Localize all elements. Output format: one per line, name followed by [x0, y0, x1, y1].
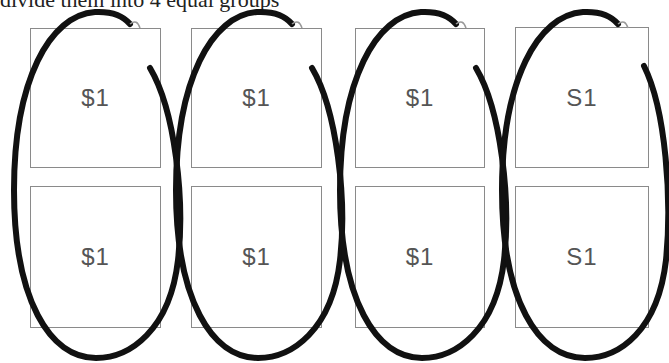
bill-label: $1 [406, 243, 435, 271]
bill-label: $1 [242, 243, 271, 271]
bill-r1-c2: $1 [191, 28, 322, 168]
bill-r1-c4: S1 [515, 27, 649, 168]
bill-r2-c3: $1 [355, 186, 485, 328]
bill-r2-c1: $1 [30, 186, 161, 328]
bill-label: $1 [406, 84, 435, 112]
bill-r1-c3: $1 [355, 28, 485, 168]
caption-text: divide them into 4 equal groups [0, 0, 669, 13]
bill-r1-c1: $1 [30, 28, 161, 168]
bill-label: S1 [566, 243, 597, 271]
bill-r2-c4: S1 [515, 186, 649, 328]
bill-label: S1 [566, 84, 597, 112]
bill-label: $1 [242, 84, 271, 112]
bill-r2-c2: $1 [191, 186, 322, 328]
bill-label: $1 [81, 84, 110, 112]
bill-label: $1 [81, 243, 110, 271]
